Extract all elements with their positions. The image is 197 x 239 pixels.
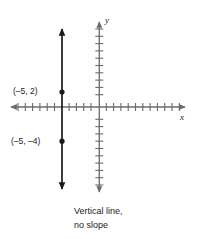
vertical-line-series [59, 29, 64, 189]
x-axis [11, 103, 185, 111]
data-point-label-1: (–5, –4) [11, 137, 40, 146]
data-point-label-0: (–5, 2) [13, 87, 38, 96]
x-axis-label: x [180, 113, 184, 122]
data-point-0 [59, 89, 64, 94]
caption-line-1: Vertical line, [74, 205, 123, 219]
coordinate-plane-graphic [0, 0, 197, 239]
y-axis-label: y [105, 16, 109, 25]
data-point-1 [59, 139, 64, 144]
figure-caption: Vertical line, no slope [74, 205, 123, 232]
caption-line-2: no slope [74, 219, 123, 233]
figure-canvas: y x (–5, 2) (–5, –4) Vertical line, no s… [0, 0, 197, 239]
